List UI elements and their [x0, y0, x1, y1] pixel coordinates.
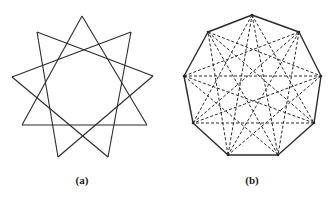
- figure-a: [12, 16, 153, 157]
- polygon-edge: [193, 123, 228, 155]
- star-edge: [108, 32, 131, 157]
- diagram-canvas: [0, 0, 331, 197]
- star-edge: [37, 32, 58, 157]
- dashed-diagonal: [252, 15, 278, 155]
- dashed-diagonal: [208, 32, 321, 76]
- polygon-edge: [314, 76, 321, 123]
- polygon-edge: [252, 15, 299, 32]
- figure-a-label: (a): [76, 174, 89, 186]
- dashed-diagonal: [252, 15, 314, 123]
- dashed-diagonal: [228, 76, 321, 155]
- polygon-edge: [184, 32, 208, 76]
- dashed-diagonal: [184, 32, 299, 76]
- figure-b: [183, 14, 323, 157]
- polygon-edge: [278, 123, 314, 155]
- figure-b-label: (b): [245, 174, 258, 186]
- star-edge: [22, 16, 82, 125]
- dashed-diagonal: [184, 76, 314, 123]
- star-edge: [12, 32, 131, 77]
- dashed-diagonal: [193, 32, 299, 123]
- star-edge: [58, 76, 153, 157]
- polygon-edge: [299, 32, 321, 76]
- polygon-edge: [208, 15, 252, 32]
- dashed-diagonal: [184, 76, 278, 155]
